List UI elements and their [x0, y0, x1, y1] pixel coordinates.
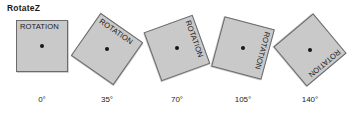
angle-caption-0: 0°: [20, 95, 64, 105]
angle-caption-1: 35°: [85, 95, 129, 105]
rotation-square-label: ROTATION: [251, 31, 272, 80]
rotatez-figure: RotateZ ROTATION ROTATION ROTATION: [0, 0, 364, 122]
rotation-square-label: ROTATION: [20, 22, 68, 31]
angle-caption-2: 70°: [155, 95, 199, 105]
angle-caption-4: 140°: [288, 95, 332, 105]
rotation-square-label: ROTATION: [184, 19, 209, 67]
rotation-square-label: ROTATION: [300, 47, 343, 85]
angle-caption-3: 105°: [221, 95, 265, 105]
rotation-square-label: ROTATION: [98, 17, 142, 52]
